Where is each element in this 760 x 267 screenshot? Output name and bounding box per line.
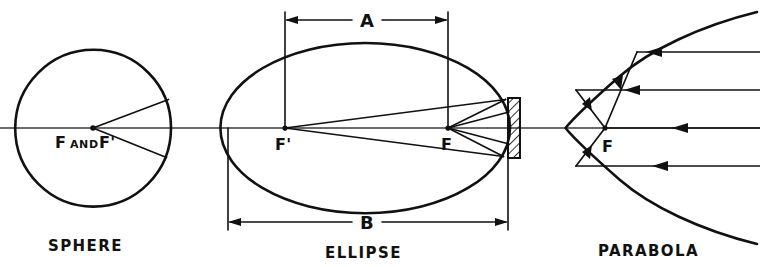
sphere-focus-label: F AND F' [55, 133, 116, 152]
optics-diagram: F AND F' SPHERE [0, 0, 760, 267]
caption-sphere: SPHERE [48, 237, 123, 255]
ellipse-focus-label-fprime: F' [275, 135, 292, 154]
caption-ellipse: ELLIPSE [325, 244, 402, 262]
ellipse-focus-label-f: F [441, 135, 452, 154]
parabola-focus-point [602, 125, 607, 130]
panel-ellipse: F' F A B ELLIPSE [220, 10, 520, 262]
sphere-focus-label-joiner: AND [70, 138, 99, 151]
panel-parabola: F PARABOLA [566, 12, 760, 260]
sphere-focus-label-f: F [55, 133, 66, 152]
caption-parabola: PARABOLA [598, 242, 699, 260]
panel-sphere: F AND F' SPHERE [15, 50, 171, 255]
dimension-b-label: B [360, 212, 374, 233]
ellipse-mirror-block [508, 98, 520, 158]
dimension-a: A [285, 10, 448, 130]
figure-root: F AND F' SPHERE [0, 0, 760, 267]
dimension-a-label: A [360, 10, 374, 31]
sphere-focus-point [90, 125, 96, 131]
sphere-focus-label-fprime: F' [99, 133, 116, 152]
dimension-b: B [228, 128, 508, 233]
parabola-focus-label: F [602, 137, 613, 156]
